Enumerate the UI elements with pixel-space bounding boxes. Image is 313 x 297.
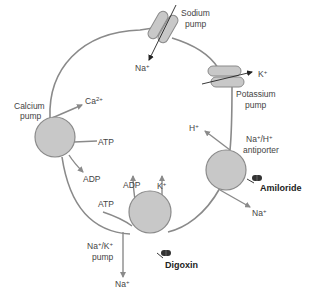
sodium-pump-label-2: pump xyxy=(185,19,207,29)
potassium-ion-label: K+ xyxy=(258,69,268,79)
antiporter-sodium-label: Na+ xyxy=(252,208,267,218)
antiporter-label-2: antiporter xyxy=(243,145,279,155)
proton-efflux-arrow xyxy=(205,131,230,150)
nak-pump-circle xyxy=(129,191,171,233)
nak-potassium-label: K+ xyxy=(157,181,167,191)
ion-pump-diagram: Sodium pump Na+ K+ Potassium pump Calciu… xyxy=(0,0,313,297)
nak-atp-label: ATP xyxy=(98,199,114,209)
nak-sodium-label: Na+ xyxy=(115,279,130,289)
nak-pump-label-1: Na+/K+ xyxy=(87,241,113,251)
digoxin-label: Digoxin xyxy=(165,260,198,270)
calcium-atp-label: ATP xyxy=(98,137,114,147)
sodium-ion-label: Na+ xyxy=(135,63,150,73)
calcium-ion-label: Ca2+ xyxy=(85,96,103,106)
calcium-atp-line xyxy=(74,141,97,142)
potassium-pump: K+ Potassium pump xyxy=(202,66,276,110)
amiloride-inhibitor: Amiloride xyxy=(247,175,302,193)
sodium-pump-label-1: Sodium xyxy=(181,8,210,18)
nak-pump-label-2: pump xyxy=(92,252,114,262)
sodium-influx-arrow xyxy=(220,190,250,207)
calcium-adp-arrow xyxy=(69,155,83,172)
digoxin-inhibitor: Digoxin xyxy=(157,250,198,270)
proton-ion-label: H+ xyxy=(189,123,199,133)
calcium-efflux-arrow xyxy=(52,105,82,118)
calcium-pump-label-1: Calcium xyxy=(14,101,45,111)
calcium-pump-label-2: pump xyxy=(20,111,42,121)
calcium-adp-label: ADP xyxy=(83,174,101,184)
na-h-antiporter: H+ Na+/H+ antiporter Na+ xyxy=(189,123,279,218)
antiporter-circle xyxy=(206,150,246,190)
nak-adp-label: ADP xyxy=(123,180,141,190)
potassium-pump-label-2: pump xyxy=(245,100,267,110)
sodium-pump: Sodium pump Na+ xyxy=(135,5,210,73)
calcium-pump-circle xyxy=(35,117,75,157)
potassium-pump-label-1: Potassium xyxy=(236,89,276,99)
amiloride-label: Amiloride xyxy=(260,183,302,193)
na-k-pump: ADP ATP K+ Na+/K+ pump Na+ xyxy=(87,176,171,289)
nak-atp-line xyxy=(103,212,132,226)
antiporter-label-1: Na+/H+ xyxy=(246,134,273,144)
